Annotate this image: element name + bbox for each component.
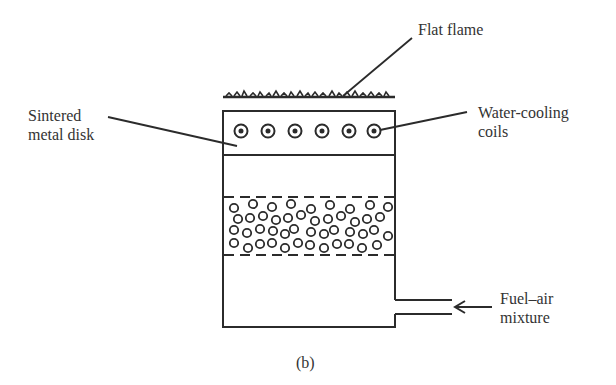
sintered-disk-label-line2: metal disk bbox=[28, 125, 94, 144]
water-cooling-label-line1: Water-cooling bbox=[478, 103, 569, 122]
fuel-air-label-line1: Fuel–air bbox=[500, 289, 553, 308]
figure-caption: (b) bbox=[296, 353, 315, 372]
coil-leader-line bbox=[380, 112, 467, 130]
disk-leader-line bbox=[108, 117, 237, 146]
water-cooling-label-line2: coils bbox=[478, 122, 508, 141]
burner-body bbox=[223, 111, 395, 327]
flame-leader-line bbox=[343, 38, 412, 96]
fuel-air-inlet-pipe bbox=[395, 300, 452, 314]
water-cooling-coils bbox=[235, 125, 381, 138]
packed-bead-bed bbox=[230, 200, 392, 252]
flat-flame-label: Flat flame bbox=[418, 20, 483, 39]
burner-diagram bbox=[0, 0, 616, 385]
flat-flame bbox=[223, 91, 395, 97]
sintered-disk-label-line1: Sintered bbox=[28, 106, 81, 125]
inflow-arrow-icon bbox=[455, 301, 492, 313]
fuel-air-label-line2: mixture bbox=[500, 308, 550, 327]
